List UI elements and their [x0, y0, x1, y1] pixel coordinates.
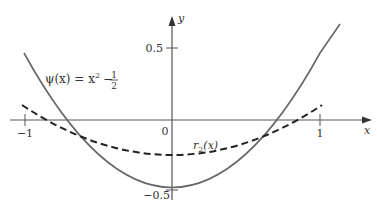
tick-label-x-1: 1: [317, 127, 324, 140]
tick-label-y-neg: −0.5: [143, 189, 170, 202]
x-axis-label: x: [364, 124, 371, 137]
tick-label-y-pos: 0.5: [146, 42, 164, 55]
psi-curve: [24, 24, 340, 188]
y-axis-label: y: [177, 12, 185, 25]
psi-annotation: ψ(x) = x2− 1 2: [45, 70, 118, 91]
tick-label-x-neg1: −1: [17, 127, 33, 140]
r2-annotation: r2(x): [193, 139, 218, 154]
chart: −1 0 1 0.5 −0.5 y x ψ(x) = x2− 1 2 r2(x): [0, 0, 377, 208]
y-axis-arrow-icon: [169, 16, 176, 26]
x-axis-arrow-icon: [362, 117, 372, 124]
tick-label-x-0: 0: [162, 125, 169, 138]
svg-text:1: 1: [111, 70, 117, 80]
svg-text:ψ(x) = x2−: ψ(x) = x2−: [45, 71, 113, 86]
svg-text:2: 2: [111, 81, 117, 91]
